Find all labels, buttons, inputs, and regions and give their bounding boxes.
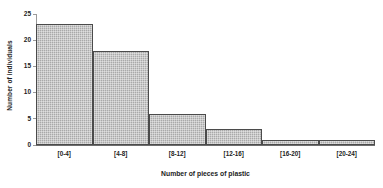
bar	[149, 114, 206, 145]
x-axis-tick-label: [16-20]	[262, 150, 319, 157]
bar	[206, 129, 263, 145]
y-axis-tick-label: 15	[24, 63, 31, 70]
bar	[93, 51, 150, 145]
bar	[319, 140, 376, 145]
y-axis-tick-label: 10	[24, 89, 31, 96]
x-axis-tick-label: [8-12]	[149, 150, 206, 157]
bar-series	[36, 14, 375, 145]
histogram-chart: Number of individuals 0510152025 [0-4][4…	[0, 0, 383, 188]
y-axis-tick-label: 25	[24, 11, 31, 17]
x-axis-tick-label: [0-4]	[36, 150, 93, 157]
bar	[262, 140, 319, 145]
y-axis-tick-label: 5	[27, 115, 31, 122]
x-axis-title: Number of pieces of plastic	[36, 170, 375, 177]
x-axis-tick-label: [12-16]	[206, 150, 263, 157]
y-axis-title: Number of individuals	[0, 0, 18, 150]
y-axis-tick-label: 0	[27, 142, 31, 149]
y-axis-title-text: Number of individuals	[6, 40, 13, 110]
x-axis-line	[36, 145, 375, 146]
y-axis-tick-label: 20	[24, 37, 31, 44]
plot-area: 0510152025	[36, 14, 375, 145]
x-axis-tick-label: [4-8]	[93, 150, 150, 157]
x-axis-tick-label: [20-24]	[319, 150, 376, 157]
x-axis-ticks: [0-4][4-8][8-12][12-16][16-20][20-24]	[36, 150, 375, 162]
bar	[36, 24, 93, 145]
